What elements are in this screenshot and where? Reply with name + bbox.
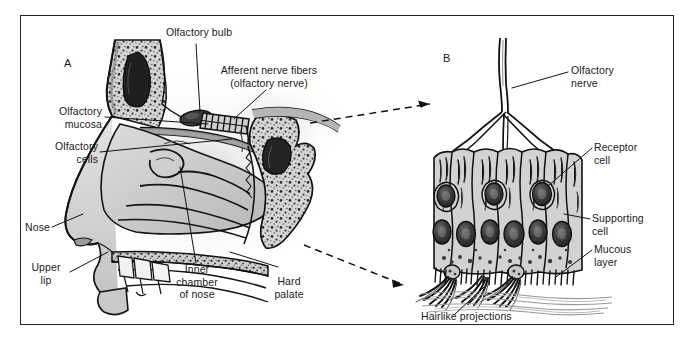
label-nose: Nose [14,221,50,234]
label-upper-lip: Upper lip [24,261,68,286]
label-hairlike-projections: Hairlike projections [421,310,541,323]
figure-frame-border [20,15,674,325]
label-mucous-layer: Mucous layer [594,243,652,268]
figure-page: A B Olfactory bulb Afferent nerve fibers… [0,0,694,349]
label-olfactory-cells: Olfactory cells [26,140,98,165]
panel-letter-a: A [64,57,71,69]
label-receptor-cell: Receptor cell [594,141,656,166]
label-olfactory-nerve: Olfactory nerve [571,64,633,89]
panel-letter-b: B [443,52,450,64]
label-afferent-nerve-fibers: Afferent nerve fibers (olfactory nerve) [206,64,332,89]
label-olfactory-bulb: Olfactory bulb [144,26,254,39]
label-supporting-cell: Supporting cell [592,212,664,237]
label-hard-palate: Hard palate [268,275,310,300]
label-inner-chamber-of-nose: Inner chamber of nose [164,263,230,301]
label-olfactory-mucosa: Olfactory mucosa [26,105,102,130]
